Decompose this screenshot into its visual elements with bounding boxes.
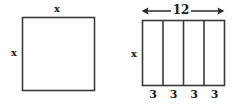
rectangle-width-label: 12 [173,4,190,16]
square-figure [23,18,95,91]
geometry-figure-canvas [0,0,246,107]
square-left-label: x [11,48,17,58]
rectangle-segment-label-2: 3 [170,89,178,100]
square-outline [23,18,95,91]
arrowhead-left-icon [142,8,149,15]
rectangle-segment-label-3: 3 [190,89,198,100]
rectangle-height-label: x [131,49,137,59]
rectangle-segment-label-1: 3 [149,89,157,100]
arrowhead-right-icon [218,8,225,15]
rectangle-segment-label-4: 3 [211,89,219,100]
divided-rectangle-figure [143,21,225,86]
square-top-label: x [54,4,60,14]
